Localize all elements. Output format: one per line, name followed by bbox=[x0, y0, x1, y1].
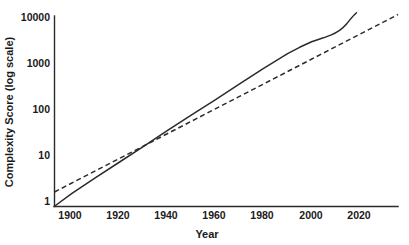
y-tick-label-100: 100 bbox=[32, 103, 50, 115]
x-tick-label-2020: 2020 bbox=[347, 209, 371, 221]
series-extrapolated-trend bbox=[55, 15, 399, 193]
line-chart: 10000 1000 100 10 1 1900 1920 1940 1960 … bbox=[0, 0, 409, 245]
y-tick-label-1: 1 bbox=[44, 195, 50, 207]
y-tick-label-10: 10 bbox=[38, 149, 50, 161]
y-axis-title: Complexity Score (log scale) bbox=[3, 36, 15, 187]
x-axis-title: Year bbox=[195, 228, 219, 240]
x-axis-tick-labels: 1900 1920 1940 1960 1980 2000 2020 bbox=[58, 209, 371, 221]
x-tick-label-1980: 1980 bbox=[250, 209, 274, 221]
y-tick-label-10000: 10000 bbox=[21, 11, 50, 23]
x-tick-label-2000: 2000 bbox=[299, 209, 323, 221]
y-axis-tick-labels: 10000 1000 100 10 1 bbox=[21, 11, 50, 207]
x-tick-label-1900: 1900 bbox=[58, 209, 82, 221]
x-tick-label-1920: 1920 bbox=[106, 209, 130, 221]
chart-container: 10000 1000 100 10 1 1900 1920 1940 1960 … bbox=[0, 0, 409, 245]
y-tick-label-1000: 1000 bbox=[27, 57, 51, 69]
series-observed-complexity bbox=[55, 13, 357, 206]
x-tick-label-1960: 1960 bbox=[202, 209, 226, 221]
x-tick-label-1940: 1940 bbox=[154, 209, 178, 221]
